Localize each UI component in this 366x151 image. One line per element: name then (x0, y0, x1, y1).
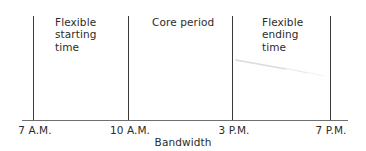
divider-line-7pm (330, 16, 331, 120)
zone-label-core-period: Core period (152, 16, 214, 28)
divider-line-3pm (232, 16, 233, 120)
axis-baseline (22, 120, 348, 121)
scan-artifact (234, 58, 326, 80)
flextime-bandwidth-diagram: Flexible starting time Core period Flexi… (0, 0, 366, 151)
axis-title-bandwidth: Bandwidth (0, 136, 366, 149)
divider-line-10am (128, 16, 129, 120)
divider-line-7am (33, 16, 34, 120)
zone-label-flexible-start: Flexible starting time (55, 16, 97, 53)
zone-label-flexible-end: Flexible ending time (262, 16, 303, 53)
